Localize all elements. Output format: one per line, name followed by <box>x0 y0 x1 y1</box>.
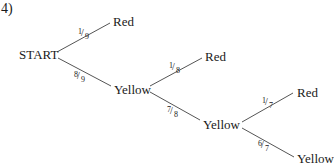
node-red-1: Red <box>113 15 134 28</box>
node-start: START <box>19 48 58 61</box>
node-yellow-2: Yellow <box>203 118 240 131</box>
problem-number: 4) <box>1 2 13 15</box>
node-red-2: Red <box>205 50 226 63</box>
node-yellow-3: Yellow <box>297 152 334 165</box>
node-red-3: Red <box>297 86 318 99</box>
node-yellow-1: Yellow <box>114 83 151 96</box>
